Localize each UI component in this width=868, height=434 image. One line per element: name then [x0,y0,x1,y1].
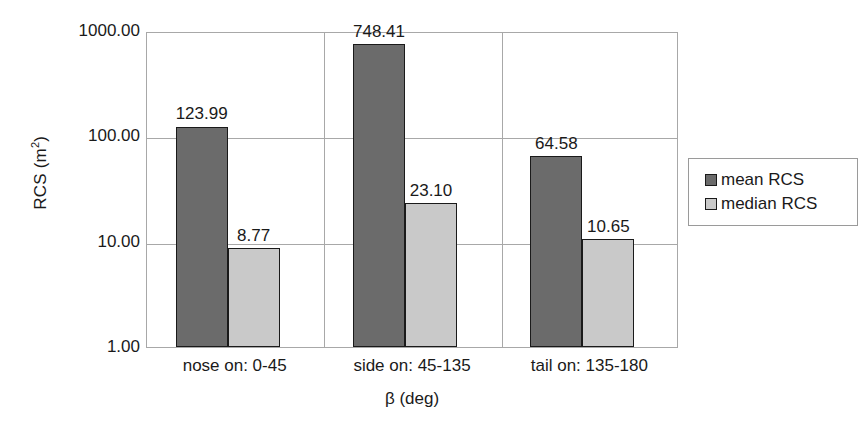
x-axis-tick-label: nose on: 0-45 [146,356,323,376]
bar-mean[interactable] [530,156,582,347]
y-axis-tick-label: 1.00 [20,337,140,357]
y-axis-tick-label: 100.00 [20,126,140,146]
legend-item[interactable]: median RCS [689,192,857,216]
bar-value-label: 23.10 [391,181,471,201]
y-axis-tick-label: 10.00 [20,232,140,252]
bar-median[interactable] [582,239,634,347]
legend-label: mean RCS [721,170,804,190]
category-separator [324,33,325,347]
bar-value-label: 8.77 [214,226,294,246]
legend-label: median RCS [721,194,817,214]
rcs-bar-chart-figure: RCS (m2) 1000.00100.0010.001.00 123.998.… [0,0,868,434]
bar-value-label: 123.99 [162,104,242,124]
plot-area: 123.998.77748.4123.1064.5810.65 [146,32,678,348]
x-axis-tick-labels: nose on: 0-45side on: 45-135tail on: 135… [146,356,678,384]
legend-item[interactable]: mean RCS [689,168,857,192]
bar-value-label: 10.65 [568,217,648,237]
y-axis-tick-label: 1000.00 [20,21,140,41]
legend-swatch-median [705,198,717,210]
y-axis-tick-labels: 1000.00100.0010.001.00 [14,0,140,434]
x-axis-tick-label: tail on: 135-180 [501,356,678,376]
bar-value-label: 64.58 [516,134,596,154]
category-separator [502,33,503,347]
bar-median[interactable] [405,203,457,347]
bar-median[interactable] [228,248,280,347]
x-axis-title: β (deg) [146,389,678,409]
chart-legend: mean RCSmedian RCS [688,158,858,226]
x-axis-tick-label: side on: 45-135 [323,356,500,376]
bar-value-label: 748.41 [339,22,419,42]
legend-swatch-mean [705,174,717,186]
